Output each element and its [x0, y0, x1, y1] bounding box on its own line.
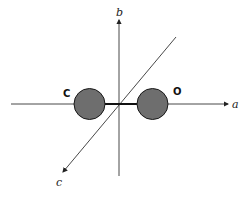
- carbon-label: C: [63, 88, 70, 99]
- c-axis-label: c: [56, 176, 62, 189]
- a-axis-label: a: [232, 98, 239, 111]
- co-molecule-diagram: a b c C O: [0, 0, 248, 197]
- oxygen-label: O: [173, 86, 182, 97]
- oxygen-atom: [137, 89, 168, 120]
- carbon-atom: [74, 89, 105, 120]
- b-axis-label: b: [116, 6, 123, 19]
